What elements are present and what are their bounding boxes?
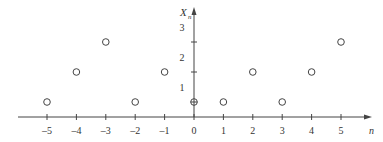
data-point: [161, 69, 168, 76]
x-axis-arrow-icon: [364, 115, 372, 120]
y-axis-title-subscript: n: [188, 13, 192, 21]
x-tick-label: 1: [221, 125, 226, 136]
data-point: [44, 99, 51, 106]
x-tick-label: –4: [70, 125, 81, 136]
scatter-plot: –5–4–3–2–1012345123nXn: [0, 0, 383, 142]
x-tick-label: 0: [192, 125, 197, 136]
y-tick-label: 1: [180, 82, 185, 93]
data-point: [103, 39, 110, 46]
data-point: [132, 99, 139, 106]
y-tick-label: 3: [180, 22, 185, 33]
y-tick-label: 2: [180, 52, 185, 63]
x-axis-title: n: [369, 125, 374, 136]
x-tick-label: 4: [309, 125, 314, 136]
y-axis-title: X: [179, 6, 188, 18]
x-tick-label: –1: [159, 125, 170, 136]
data-point: [73, 69, 80, 76]
x-tick-label: –5: [41, 125, 52, 136]
x-tick-label: –3: [100, 125, 111, 136]
chart: –5–4–3–2–1012345123nXn n: [0, 0, 383, 142]
x-tick-label: 5: [339, 125, 344, 136]
data-point: [220, 99, 227, 106]
data-point: [308, 69, 315, 76]
data-point: [338, 39, 345, 46]
x-tick-label: 2: [250, 125, 255, 136]
x-tick-label: –2: [129, 125, 140, 136]
y-axis-arrow-icon: [192, 7, 197, 15]
x-tick-label: 3: [280, 125, 285, 136]
data-point: [250, 69, 257, 76]
data-point: [279, 99, 286, 106]
